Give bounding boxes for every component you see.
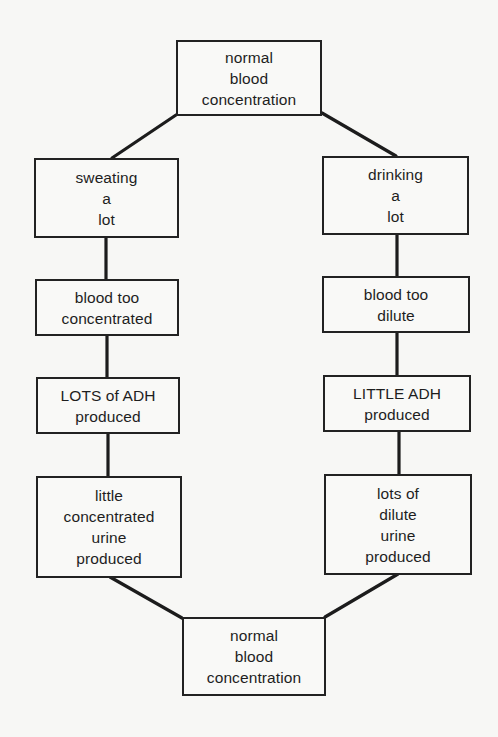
node-lots-of-dilute-urine-produced: lots of dilute urine produced — [324, 474, 472, 575]
node-normal-blood-concentration-end: normal blood concentration — [182, 617, 326, 696]
node-little-adh-produced: LITTLE ADH produced — [323, 375, 471, 432]
node-lots-of-adh-produced: LOTS of ADH produced — [36, 377, 180, 434]
node-label-line: a — [391, 185, 400, 206]
node-label-line: drinking — [368, 164, 423, 185]
connector-dilute-urine-to-end — [325, 574, 398, 617]
node-label-line: little — [95, 485, 123, 506]
node-sweating-a-lot: sweating a lot — [34, 158, 179, 238]
node-label-line: LITTLE ADH — [353, 383, 441, 404]
node-label-line: concentration — [207, 667, 301, 688]
node-label-line: dilute — [379, 504, 417, 525]
node-label-line: produced — [365, 546, 430, 567]
node-label-line: normal — [225, 47, 273, 68]
node-label-line: dilute — [377, 305, 415, 326]
connector-start-to-sweating — [112, 115, 176, 158]
node-label-line: blood — [230, 68, 268, 89]
node-label-line: lot — [387, 206, 404, 227]
node-label-line: lot — [98, 209, 115, 230]
node-label-line: blood too — [75, 287, 140, 308]
node-label-line: urine — [92, 527, 127, 548]
node-label-line: lots of — [377, 483, 419, 504]
node-label-line: concentration — [202, 89, 296, 110]
node-label-line: a — [102, 188, 111, 209]
node-normal-blood-concentration-start: normal blood concentration — [176, 40, 322, 116]
node-label-line: blood too — [364, 284, 429, 305]
node-label-line: produced — [75, 406, 140, 427]
node-label-line: concentrated — [64, 506, 155, 527]
node-label-line: urine — [381, 525, 416, 546]
node-label-line: blood — [235, 646, 273, 667]
node-label-line: sweating — [76, 167, 138, 188]
node-little-concentrated-urine-produced: little concentrated urine produced — [36, 476, 182, 578]
node-drinking-a-lot: drinking a lot — [322, 156, 469, 235]
node-label-line: LOTS of ADH — [61, 385, 156, 406]
node-label-line: produced — [76, 548, 141, 569]
node-blood-too-dilute: blood too dilute — [322, 276, 470, 333]
node-blood-too-concentrated: blood too concentrated — [35, 279, 179, 336]
node-label-line: concentrated — [62, 308, 153, 329]
connector-start-to-drinking — [322, 113, 396, 156]
node-label-line: produced — [364, 404, 429, 425]
node-label-line: normal — [230, 625, 278, 646]
connector-concentrated-urine-to-end — [110, 577, 182, 618]
